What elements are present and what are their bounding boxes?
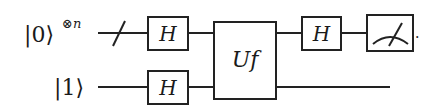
quantum-circuit: |0⟩ ⊗n |1⟩ H H Uf H . [0, 0, 442, 110]
qubit-0-label: |0⟩ [24, 22, 54, 48]
hadamard-gate-q1: H [148, 71, 188, 104]
measurement-gate [367, 15, 413, 51]
hadamard-gate-q0-final: H [302, 17, 341, 50]
oracle-uf-gate: Uf [214, 22, 276, 99]
trailing-period: . [415, 25, 419, 41]
gate-label: H [158, 76, 177, 100]
qubit-1-label: |1⟩ [54, 75, 84, 101]
qubit-0-tensor-power: ⊗n [62, 16, 81, 31]
gate-label: H [158, 22, 177, 46]
gate-label: Uf [232, 47, 263, 72]
hadamard-gate-q0: H [148, 17, 188, 50]
gate-label: H [312, 22, 331, 46]
